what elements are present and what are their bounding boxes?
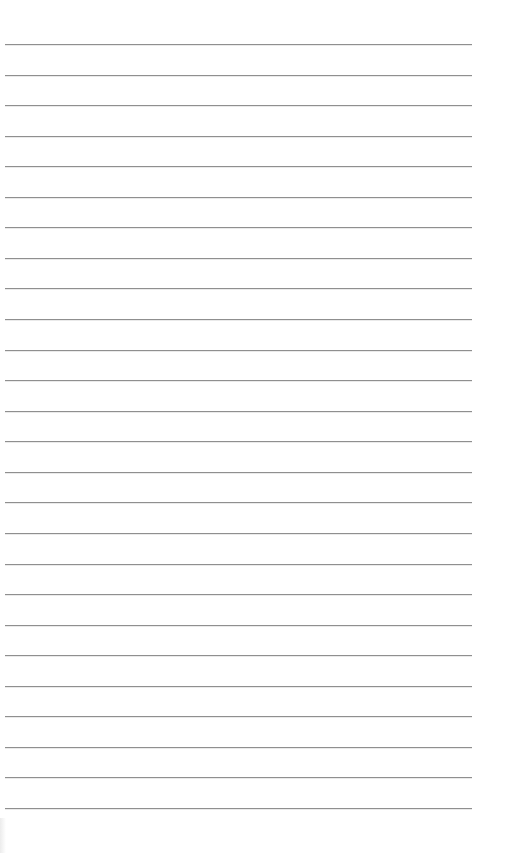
- ruled-line: [5, 625, 472, 626]
- ruled-line: [5, 288, 472, 289]
- ruled-line: [5, 44, 472, 45]
- ruled-line: [5, 441, 472, 442]
- ruled-line: [5, 105, 472, 106]
- ruled-line: [5, 747, 472, 748]
- ruled-line: [5, 227, 472, 228]
- ruled-line: [5, 380, 472, 381]
- ruled-line: [5, 808, 472, 809]
- ruled-line: [5, 411, 472, 412]
- lined-page: [0, 0, 505, 853]
- ruled-line: [5, 502, 472, 503]
- ruled-line: [5, 655, 472, 656]
- ruled-line: [5, 75, 472, 76]
- ruled-line: [5, 350, 472, 351]
- ruled-line: [5, 258, 472, 259]
- ruled-line: [5, 197, 472, 198]
- ruled-line: [5, 136, 472, 137]
- ruled-line: [5, 594, 472, 595]
- ruled-line: [5, 686, 472, 687]
- ruled-line: [5, 777, 472, 778]
- ruled-line: [5, 533, 472, 534]
- ruled-line: [5, 472, 472, 473]
- ruled-line: [5, 564, 472, 565]
- edge-shadow: [0, 818, 6, 853]
- ruled-line: [5, 319, 472, 320]
- ruled-line: [5, 166, 472, 167]
- ruled-line: [5, 716, 472, 717]
